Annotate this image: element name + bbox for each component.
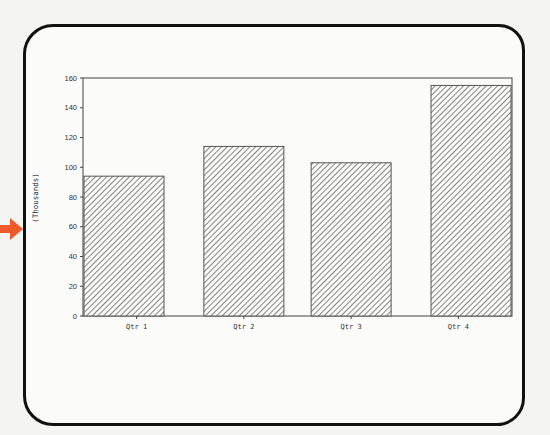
y-tick-label: 0 — [73, 312, 77, 321]
bar-qtr-3 — [311, 163, 391, 316]
y-tick-label: 120 — [64, 133, 77, 142]
x-tick-label: Qtr 1 — [126, 323, 147, 331]
y-axis: 020406080100120140160 — [64, 74, 83, 321]
x-tick-label: Qtr 3 — [341, 323, 362, 331]
bar-qtr-2 — [204, 146, 284, 316]
y-axis-title: (Thousands) — [31, 173, 40, 223]
y-tick-label: 20 — [69, 282, 77, 291]
bar-qtr-1 — [84, 176, 164, 316]
x-axis: Qtr 1Qtr 2Qtr 3Qtr 4 — [126, 316, 469, 331]
bar-qtr-4 — [431, 85, 511, 316]
bar-chart: 020406080100120140160 Qtr 1Qtr 2Qtr 3Qtr… — [0, 0, 550, 435]
x-tick-label: Qtr 4 — [448, 323, 469, 331]
y-tick-label: 140 — [64, 103, 77, 112]
bars-group — [84, 85, 511, 316]
y-tick-label: 60 — [69, 222, 77, 231]
y-tick-label: 80 — [69, 193, 77, 202]
x-tick-label: Qtr 2 — [233, 323, 254, 331]
y-tick-label: 40 — [69, 252, 77, 261]
y-tick-label: 100 — [64, 163, 77, 172]
y-tick-label: 160 — [64, 74, 77, 83]
